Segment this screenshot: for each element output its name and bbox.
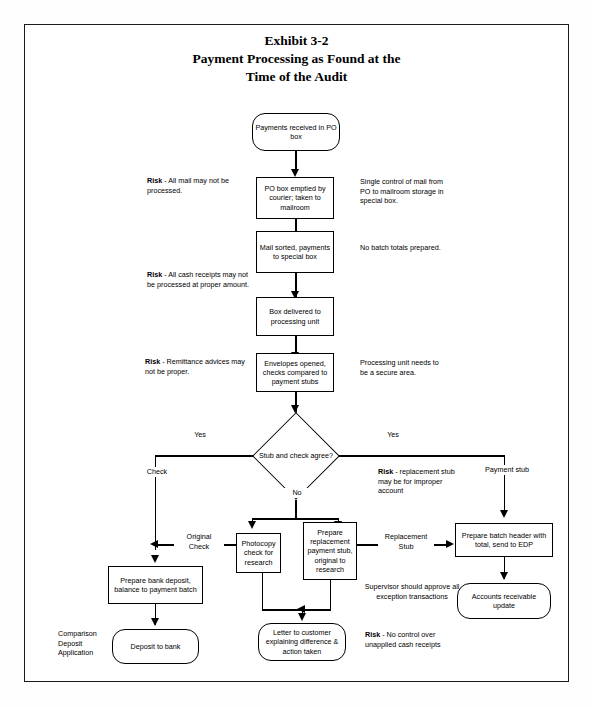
connector-n1-n2 (295, 151, 296, 171)
arrowhead-to-letter (298, 613, 306, 621)
risk-label: Risk (145, 357, 160, 366)
title-line-3: Time of the Audit (24, 68, 569, 86)
edge-label-check: Check (131, 467, 183, 477)
node-prepare-batch-header: Prepare batch header with total, send to… (455, 523, 553, 557)
node-letter-to-customer: Letter to customer explaining difference… (258, 623, 346, 661)
edge-label-yes-left: Yes (183, 430, 217, 440)
risk-label: Risk (378, 467, 393, 476)
risk-note-3: Risk - Remittance advices may not be pro… (145, 357, 255, 376)
arrowhead-to-batch-header (500, 510, 508, 518)
node-envelopes-opened: Envelopes opened, checks compared to pay… (256, 353, 334, 392)
arrowhead-n10-n11 (151, 618, 159, 626)
node-mail-sorted: Mail sorted, payments to special box (256, 231, 334, 273)
risk-note-1: Risk - All mail may not be processed. (147, 176, 252, 195)
arrowhead-to-photocopy (248, 521, 256, 529)
risk-text: - Remittance advices may not be proper. (145, 357, 245, 376)
title-line-2: Payment Processing as Found at the (24, 50, 569, 68)
decision-stub-and-check-agree: Stub and check agree? (252, 412, 340, 500)
title-line-1: Exhibit 3-2 (24, 32, 569, 50)
page-canvas: Exhibit 3-2 Payment Processing as Found … (0, 0, 592, 707)
control-note-1: Single control of mail from PO to mailro… (360, 177, 445, 206)
connector-decision-no (295, 500, 296, 519)
control-note-3: Processing unit needs to be a secure are… (360, 358, 448, 377)
node-prepare-bank-deposit: Prepare bank deposit, balance to payment… (108, 566, 203, 604)
decision-label: Stub and check agree? (259, 451, 333, 460)
edge-label-no: No (282, 488, 312, 498)
connector-decision-left-yes (155, 455, 253, 456)
risk-label: Risk (365, 630, 380, 639)
risk-label: Risk (147, 270, 162, 279)
risk-note-4: Risk - replacement stub may be for impro… (378, 467, 456, 496)
node-label: Deposit to bank (131, 642, 181, 651)
risk-text: - All cash receipts may not be processed… (147, 270, 249, 289)
node-accounts-receivable-update: Accounts receivable update (457, 583, 551, 619)
connector-n6-right (262, 609, 302, 610)
connector-n7-left (302, 609, 331, 610)
node-label: Mail sorted, payments to special box (259, 243, 331, 262)
node-label: Payments received in PO box (255, 123, 337, 142)
arrowhead-original-check (150, 540, 158, 548)
risk-note-5: Risk - No control over unapplied cash re… (365, 630, 461, 649)
node-photocopy-check: Photocopy check for research (236, 533, 281, 573)
connector-n6-down (262, 573, 263, 610)
edge-label-yes-right: Yes (376, 430, 410, 440)
node-label: Photocopy check for research (239, 539, 278, 567)
control-note-4: Supervisor should approve all exception … (364, 582, 460, 601)
arrowhead-n8-n9 (500, 572, 508, 580)
risk-label: Risk (147, 176, 162, 185)
node-prepare-replacement-stub: Prepare replacement payment stub, origin… (303, 522, 357, 580)
arrowhead-replacement-stub (446, 540, 454, 548)
node-label: Prepare replacement payment stub, origin… (306, 528, 354, 574)
arrowhead-n1-n2 (291, 169, 299, 177)
page-title: Exhibit 3-2 Payment Processing as Found … (24, 32, 569, 86)
arrowhead-letter-junction (297, 605, 305, 613)
edge-label-replacement-stub: Replacement Stub (378, 532, 434, 551)
connector-n7-down (330, 580, 331, 610)
arrowhead-to-bank-deposit (151, 555, 159, 563)
node-po-box-emptied: PO box emptied by courier; taken to mail… (256, 177, 334, 219)
node-label: Box delivered to processing unit (259, 307, 331, 326)
node-label: Envelopes opened, checks compared to pay… (259, 359, 331, 387)
node-label: Letter to customer explaining difference… (261, 628, 343, 656)
risk-note-2: Risk - All cash receipts may not be proc… (147, 270, 255, 289)
control-note-2: No batch totals prepared. (360, 243, 455, 253)
node-payments-received: Payments received in PO box (252, 113, 340, 151)
annotation-comparison-deposit-application: Comparison Deposit Application (58, 629, 114, 658)
node-label: Prepare batch header with total, send to… (458, 531, 550, 550)
connector-decision-right-yes (339, 455, 505, 456)
edge-label-payment-stub: Payment stub (481, 465, 533, 475)
node-label: Prepare bank deposit, balance to payment… (111, 576, 200, 595)
node-label: Accounts receivable update (460, 592, 548, 611)
node-deposit-to-bank: Deposit to bank (112, 629, 199, 664)
node-box-delivered: Box delivered to processing unit (256, 297, 334, 336)
connector-no-split (252, 518, 339, 519)
edge-label-original-check: Original Check (174, 532, 224, 551)
node-label: PO box emptied by courier; taken to mail… (259, 184, 331, 212)
